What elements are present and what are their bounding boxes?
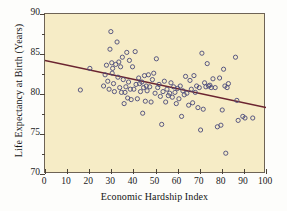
data-point	[111, 82, 115, 86]
x-tick-major	[222, 169, 223, 174]
data-point	[226, 82, 230, 86]
data-point	[153, 91, 157, 95]
data-point	[164, 100, 168, 104]
data-point	[120, 55, 124, 59]
x-tick-major	[156, 169, 157, 174]
data-point	[141, 111, 145, 115]
y-tick-label: 75	[18, 128, 40, 138]
x-tick-label: 70	[187, 177, 211, 187]
data-point	[101, 84, 105, 88]
data-point	[142, 74, 146, 78]
data-point	[224, 151, 228, 155]
data-point	[143, 99, 147, 103]
data-point	[201, 107, 205, 111]
data-point	[137, 76, 141, 80]
data-point	[220, 108, 224, 112]
data-point	[165, 87, 169, 91]
y-tick-label: 80	[18, 88, 40, 98]
data-point	[188, 78, 192, 82]
x-tick-major	[200, 169, 201, 174]
data-point	[149, 100, 153, 104]
data-point	[146, 73, 150, 77]
data-point	[107, 87, 111, 91]
x-tick-major	[244, 169, 245, 174]
data-point	[187, 103, 191, 107]
y-tick-minor	[42, 74, 45, 75]
plot-canvas	[45, 14, 266, 174]
data-point	[154, 57, 158, 61]
data-point	[192, 74, 196, 78]
data-point	[162, 79, 166, 83]
x-tick-major	[111, 169, 112, 174]
data-point	[125, 50, 129, 54]
data-point	[104, 63, 108, 67]
data-point	[161, 90, 165, 94]
x-tick-major	[266, 169, 267, 174]
data-point	[183, 74, 187, 78]
data-point	[109, 30, 113, 34]
data-point	[169, 81, 173, 85]
data-point	[133, 50, 137, 54]
data-point	[135, 97, 139, 101]
data-point	[126, 80, 130, 84]
x-tick-major	[89, 169, 90, 174]
data-point	[130, 65, 134, 69]
plot-area	[44, 13, 265, 173]
data-point	[198, 128, 202, 132]
y-tick-major	[40, 54, 45, 55]
data-point	[174, 102, 178, 106]
x-axis-title: Economic Hardship Index	[44, 191, 265, 202]
y-tick-minor	[42, 34, 45, 35]
data-point	[191, 101, 195, 105]
data-point	[189, 87, 193, 91]
data-point	[217, 76, 221, 80]
data-point	[160, 122, 164, 126]
data-point	[177, 97, 181, 101]
trendline	[45, 60, 266, 107]
data-point	[251, 116, 255, 120]
data-point	[170, 95, 174, 99]
data-point	[236, 118, 240, 122]
x-tick-label: 90	[231, 177, 255, 187]
x-tick-label: 40	[120, 177, 144, 187]
data-point	[111, 66, 115, 70]
x-tick-label: 20	[76, 177, 100, 187]
data-point	[124, 85, 128, 89]
data-point	[200, 51, 204, 55]
data-point	[118, 86, 122, 90]
data-point	[205, 62, 209, 66]
y-tick-minor	[42, 114, 45, 115]
x-tick-label: 60	[165, 177, 189, 187]
data-point	[219, 123, 223, 127]
trendline-segment	[45, 60, 266, 107]
x-tick-label: 30	[98, 177, 122, 187]
x-tick-label: 100	[253, 177, 277, 187]
data-point	[106, 79, 110, 83]
y-tick-major	[40, 134, 45, 135]
x-tick-label: 10	[54, 177, 78, 187]
x-tick-label: 0	[32, 177, 56, 187]
x-tick-major	[178, 169, 179, 174]
y-tick-major	[40, 94, 45, 95]
x-tick-label: 50	[143, 177, 167, 187]
data-point	[196, 106, 200, 110]
data-point	[115, 40, 119, 44]
scatter-chart-figure: Life Expectancy at Birth (Years) 7075808…	[0, 0, 287, 211]
data-point	[233, 55, 237, 59]
data-point	[78, 88, 82, 92]
data-point	[117, 60, 121, 64]
data-point	[108, 47, 112, 51]
data-point	[211, 77, 215, 81]
y-tick-major	[40, 14, 45, 15]
data-point	[138, 90, 142, 94]
data-point	[122, 102, 126, 106]
y-tick-label: 90	[18, 8, 40, 18]
data-point	[152, 71, 156, 75]
x-tick-major	[45, 169, 46, 174]
data-point	[150, 78, 154, 82]
y-tick-label: 85	[18, 48, 40, 58]
data-points	[78, 30, 255, 156]
data-point	[179, 114, 183, 118]
data-point	[158, 94, 162, 98]
y-tick-minor	[42, 154, 45, 155]
